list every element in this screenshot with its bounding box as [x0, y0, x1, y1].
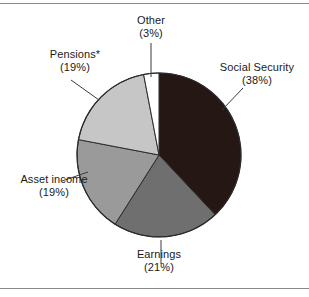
pie-label-earnings-name: Earnings: [123, 248, 195, 261]
leader-line-social-security: [222, 88, 243, 110]
pie-label-social-security-percent: (38%): [210, 74, 304, 87]
pie-label-earnings-percent: (21%): [123, 261, 195, 274]
pie-label-social-security: Social Security (38%): [210, 61, 304, 86]
pie-label-asset-income-name: Asset income: [10, 173, 98, 186]
pie-label-pensions-name: Pensions*: [38, 48, 112, 61]
pie-label-other: Other (3%): [120, 14, 182, 39]
pie-chart-figure: Other (3%) Social Security (38%) Pension…: [0, 0, 309, 297]
pie-label-asset-income: Asset income (19%): [10, 173, 98, 198]
leader-line-pensions: [71, 80, 99, 100]
pie-label-earnings: Earnings (21%): [123, 248, 195, 273]
pie-label-pensions-percent: (19%): [38, 61, 112, 74]
pie-label-asset-income-percent: (19%): [10, 186, 98, 199]
pie-label-pensions: Pensions* (19%): [38, 48, 112, 73]
pie-label-other-name: Other: [120, 14, 182, 27]
pie-label-social-security-name: Social Security: [210, 61, 304, 74]
pie-label-other-percent: (3%): [120, 27, 182, 40]
